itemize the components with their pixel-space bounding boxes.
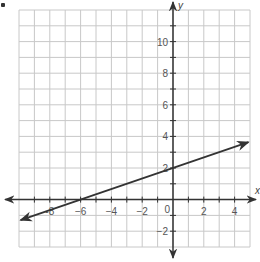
- origin-label: 0: [164, 204, 170, 215]
- x-tick-label: −2: [136, 206, 148, 217]
- y-tick-label: 10: [157, 37, 169, 48]
- x-axis-label: x: [254, 185, 260, 196]
- coordinate-plane: -8−6−4−224108642−20xy: [0, 0, 260, 262]
- series-line: [21, 142, 249, 220]
- x-tick-label: −6: [75, 206, 87, 217]
- y-tick-label: 6: [162, 100, 168, 111]
- series: [21, 142, 249, 220]
- y-tick-label: 8: [162, 68, 168, 79]
- y-axis-label: y: [177, 0, 184, 11]
- y-tick-label: −2: [157, 226, 169, 237]
- axes: [5, 2, 256, 258]
- y-tick-label: 2: [162, 163, 168, 174]
- y-tick-label: 4: [162, 131, 168, 142]
- ticks: [34, 26, 234, 231]
- x-tick-label: −4: [106, 206, 118, 217]
- tick-labels: -8−6−4−224108642−20xy: [45, 0, 260, 237]
- x-tick-label: 4: [232, 206, 238, 217]
- x-tick-label: 2: [201, 206, 207, 217]
